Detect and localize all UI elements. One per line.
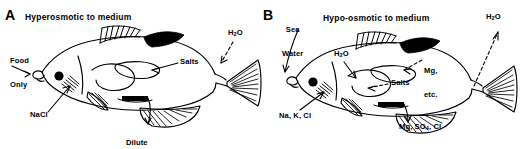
food-only-line2: Only bbox=[10, 81, 29, 89]
panel-a-title: Hyperosmotic to medium bbox=[25, 13, 131, 22]
mg-etc-line2: etc. bbox=[424, 91, 438, 99]
h2o-out-a-tail: O bbox=[237, 28, 243, 37]
h2o-out-b-tail: O bbox=[495, 12, 501, 21]
sea-water-label: Sea Water bbox=[282, 11, 303, 73]
sea-water-line1: Sea bbox=[282, 26, 303, 34]
na-k-cl-label: Na, K, Cl bbox=[279, 112, 311, 120]
dilute-urine-line1: Dilute bbox=[126, 139, 148, 147]
mg-so4-post: , Cl bbox=[429, 122, 441, 131]
dilute-urine-label: Dilute Urine bbox=[126, 124, 148, 149]
osmoregulation-figure: A Hyperosmotic to medium Food Only NaCl … bbox=[0, 0, 531, 149]
sea-water-line2: Water bbox=[282, 50, 303, 58]
salts-label-b: Salts bbox=[391, 79, 410, 87]
salts-label-a: Salts bbox=[180, 58, 199, 66]
mg-etc-label: Mg, etc. bbox=[424, 52, 438, 114]
food-only-label: Food Only bbox=[10, 42, 29, 104]
food-only-line1: Food bbox=[10, 57, 29, 65]
mg-so4-cl-label: Mg, SO4, Cl bbox=[399, 123, 441, 132]
h2o-out-label-b: H2O bbox=[486, 13, 501, 22]
h2o-in-label-b: H2O bbox=[334, 50, 349, 59]
mg-etc-line1: Mg, bbox=[424, 67, 438, 75]
panel-b-letter: B bbox=[263, 8, 273, 22]
panel-b-title: Hypo-osmotic to medium bbox=[323, 14, 429, 23]
mg-so4-pre: Mg, SO bbox=[399, 122, 426, 131]
nacl-label: NaCl bbox=[30, 111, 48, 119]
h2o-in-b-tail: O bbox=[343, 49, 349, 58]
panelA-fish-body bbox=[33, 26, 261, 127]
h2o-out-label-a: H2O bbox=[228, 29, 243, 38]
panel-a-letter: A bbox=[5, 8, 15, 22]
